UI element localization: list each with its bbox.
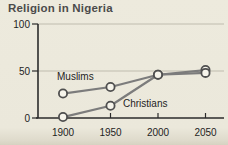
data-point-christians-2050: [201, 69, 209, 77]
series-label-christians: Christians: [123, 98, 167, 109]
data-point-muslims-1950: [106, 83, 114, 91]
x-tick-label-2050: 2050: [194, 127, 217, 138]
x-tick-label-2000: 2000: [147, 127, 170, 138]
y-tick-label-50: 50: [19, 66, 31, 77]
data-point-christians-1900: [59, 113, 67, 121]
x-tick-label-1900: 1900: [52, 127, 75, 138]
religion-in-nigeria-figure: Religion in Nigeria 05010019001950200020…: [0, 0, 228, 145]
series-label-muslims: Muslims: [57, 71, 94, 82]
y-tick-label-0: 0: [24, 113, 30, 124]
data-point-christians-1950: [106, 102, 114, 110]
data-point-muslims-1900: [59, 89, 67, 97]
y-tick-label-100: 100: [13, 19, 30, 30]
line-chart: 0501001900195020002050MuslimsChristians: [0, 0, 228, 145]
data-point-christians-2000: [154, 71, 162, 79]
x-tick-label-1950: 1950: [99, 127, 122, 138]
